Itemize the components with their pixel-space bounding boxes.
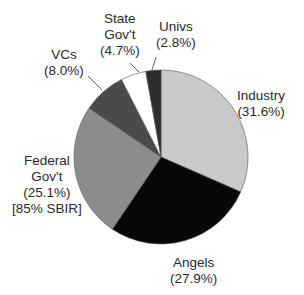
label-state-name: State [100, 11, 140, 27]
leader-line-vcs [88, 76, 102, 90]
label-federal-note: [85% SBIR] [12, 201, 82, 217]
label-univs-pct: (2.8%) [156, 35, 196, 51]
label-univs-name: Univs [156, 19, 196, 35]
label-state: State Gov't (4.7%) [100, 11, 140, 59]
label-state-name2: Gov't [100, 27, 140, 43]
pie-chart [0, 0, 304, 295]
label-federal-pct: (25.1%) [12, 185, 82, 201]
label-angels: Angels (27.9%) [170, 255, 217, 287]
label-industry: Industry (31.6%) [237, 88, 285, 120]
label-vcs-name: VCs [44, 47, 84, 63]
label-industry-pct: (31.6%) [237, 104, 285, 120]
leader-line-univs [152, 57, 156, 70]
label-industry-name: Industry [237, 88, 285, 104]
leader-line-state [130, 63, 139, 72]
label-angels-pct: (27.9%) [170, 271, 217, 287]
label-vcs-pct: (8.0%) [44, 63, 84, 79]
label-federal-name2: Gov't [12, 169, 82, 185]
label-federal-name: Federal [12, 153, 82, 169]
label-federal: Federal Gov't (25.1%) [85% SBIR] [12, 153, 82, 217]
label-vcs: VCs (8.0%) [44, 47, 84, 79]
label-univs: Univs (2.8%) [156, 19, 196, 51]
label-state-pct: (4.7%) [100, 43, 140, 59]
label-angels-name: Angels [170, 255, 217, 271]
